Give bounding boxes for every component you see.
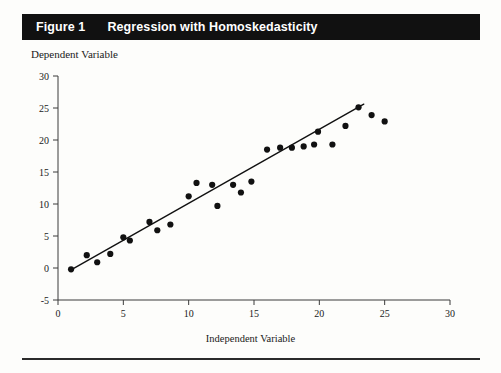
x-tick-label: 25 [380, 308, 390, 319]
data-point [186, 193, 192, 199]
y-tick-label: 30 [39, 71, 49, 82]
x-tick-label: 10 [184, 308, 194, 319]
x-tick-label: 15 [249, 308, 259, 319]
data-point [193, 180, 199, 186]
x-tick-label: 30 [445, 308, 455, 319]
data-point [146, 219, 152, 225]
y-tick-label: 20 [39, 135, 49, 146]
data-point [214, 203, 220, 209]
x-tick-label: 0 [56, 308, 61, 319]
y-tick-label: 25 [39, 103, 49, 114]
data-point [127, 237, 133, 243]
data-point [342, 123, 348, 129]
data-point [154, 227, 160, 233]
data-point [382, 118, 388, 124]
data-point [107, 251, 113, 257]
data-point [277, 145, 283, 151]
data-point [369, 112, 375, 118]
y-tick-label: 5 [44, 231, 49, 242]
x-axis-title: Independent Variable [0, 333, 501, 344]
figure-container: Figure 1 Regression with Homoskedasticit… [0, 0, 501, 373]
data-point [315, 129, 321, 135]
data-point [248, 179, 254, 185]
y-tick-label: 0 [44, 263, 49, 274]
data-point [209, 182, 215, 188]
x-tick-label: 5 [121, 308, 126, 319]
y-tick-label: -5 [41, 295, 49, 306]
data-point [167, 221, 173, 227]
data-point [230, 182, 236, 188]
x-tick-label: 20 [314, 308, 324, 319]
data-point [68, 266, 74, 272]
data-point [289, 145, 295, 151]
axes [53, 76, 450, 305]
data-point [355, 104, 361, 110]
data-point [238, 189, 244, 195]
data-points [68, 104, 388, 272]
data-point [264, 147, 270, 153]
data-point [84, 252, 90, 258]
data-point [120, 234, 126, 240]
regression-line [71, 104, 364, 270]
footer-rule [22, 358, 480, 360]
data-point [311, 141, 317, 147]
data-point [301, 143, 307, 149]
y-tick-label: 15 [39, 167, 49, 178]
y-tick-label: 10 [39, 199, 49, 210]
data-point [329, 141, 335, 147]
data-point [94, 259, 100, 265]
